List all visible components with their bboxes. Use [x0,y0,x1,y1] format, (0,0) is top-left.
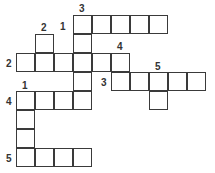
crossword-cell[interactable] [168,72,187,91]
crossword-cell[interactable] [149,72,168,91]
clue-number: 5 [6,154,12,164]
crossword-cell[interactable] [35,53,54,72]
crossword-cell[interactable] [149,91,168,110]
clue-number: 1 [22,81,28,91]
crossword-cell[interactable] [16,148,35,167]
clue-number: 5 [155,62,161,72]
crossword-cell[interactable] [92,15,111,34]
crossword-cell[interactable] [73,34,92,53]
crossword-cell[interactable] [73,53,92,72]
crossword-cell[interactable] [73,91,92,110]
crossword-cell[interactable] [111,53,130,72]
crossword-cell[interactable] [54,91,73,110]
crossword-cell[interactable] [149,15,168,34]
clue-number: 3 [79,4,85,14]
crossword-cell[interactable] [35,91,54,110]
clue-number: 4 [117,42,123,52]
crossword-cell[interactable] [130,72,149,91]
clue-number: 1 [60,22,66,32]
crossword-cell[interactable] [111,15,130,34]
clue-number: 3 [101,78,107,88]
crossword-cell[interactable] [187,72,206,91]
crossword-cell[interactable] [130,15,149,34]
crossword-cell[interactable] [16,129,35,148]
crossword-cell[interactable] [35,148,54,167]
crossword-cell[interactable] [35,34,54,53]
clue-number: 2 [41,23,47,33]
clue-number: 2 [6,59,12,69]
crossword-cell[interactable] [73,72,92,91]
crossword-cell[interactable] [73,15,92,34]
crossword-cell[interactable] [54,53,73,72]
crossword-cell[interactable] [111,72,130,91]
crossword-cell[interactable] [16,91,35,110]
clue-number: 4 [6,97,12,107]
crossword-grid: 3122435145 [0,0,215,173]
crossword-cell[interactable] [73,148,92,167]
crossword-cell[interactable] [16,110,35,129]
crossword-cell[interactable] [54,148,73,167]
crossword-cell[interactable] [16,53,35,72]
crossword-cell[interactable] [92,53,111,72]
